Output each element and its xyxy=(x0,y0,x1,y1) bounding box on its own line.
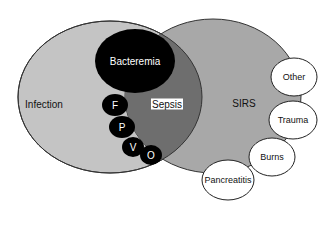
organ-v-label: V xyxy=(130,142,137,153)
organ-f-label: F xyxy=(112,100,118,111)
sepsis-label: Sepsis xyxy=(151,99,183,110)
organ-p-label: P xyxy=(119,122,126,133)
bacteremia-label: Bacteremia xyxy=(110,56,161,67)
organ-o-label: O xyxy=(147,150,155,161)
infection-label: Infection xyxy=(25,99,63,110)
burns-label: Burns xyxy=(260,152,284,162)
pancreatitis-label: Pancreatitis xyxy=(204,175,251,185)
other-label: Other xyxy=(283,72,306,82)
trauma-label: Trauma xyxy=(278,115,309,125)
sirs-label: SIRS xyxy=(232,98,255,109)
